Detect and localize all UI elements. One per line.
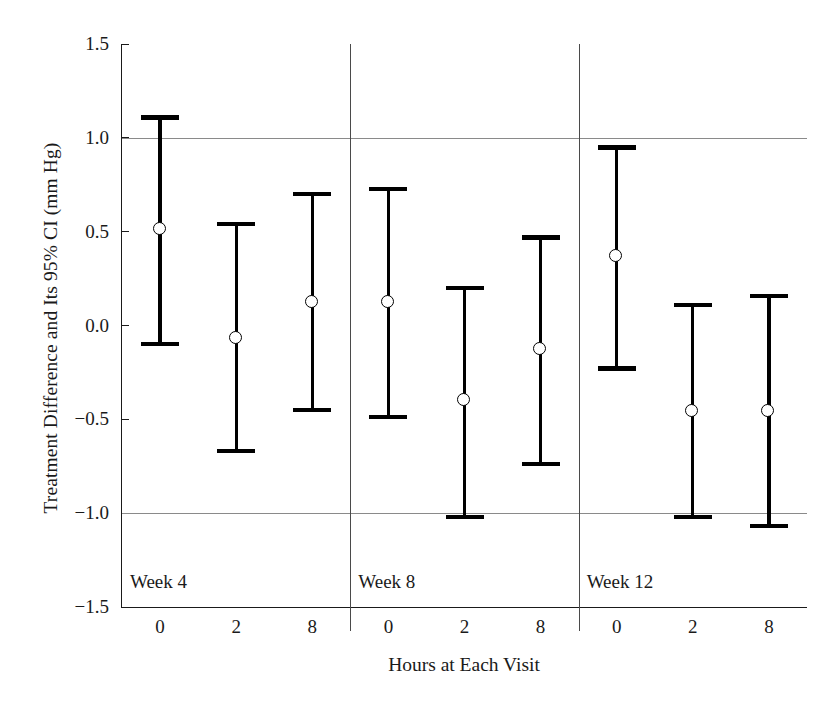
point-marker	[381, 295, 394, 308]
error-bar-upper-cap	[522, 235, 560, 239]
error-bar-upper-cap	[446, 286, 484, 290]
error-bar-upper-cap	[598, 145, 636, 149]
x-tick-label: 0	[130, 616, 190, 638]
error-bar-upper-cap	[750, 294, 788, 298]
y-tick-label: 0.0	[85, 313, 109, 339]
error-bar-lower-cap	[141, 342, 179, 346]
point-marker	[457, 393, 470, 406]
error-bar-chart: Treatment Difference and Its 95% CI (mm …	[0, 0, 825, 701]
point-marker	[685, 404, 698, 417]
point-marker	[609, 249, 622, 262]
error-bar-upper-cap	[674, 303, 712, 307]
group-separator	[350, 44, 351, 631]
x-tick-label: 8	[739, 616, 799, 638]
y-axis-title: Treatment Difference and Its 95% CI (mm …	[34, 18, 68, 638]
error-bar-lower-cap	[522, 462, 560, 466]
group-caption: Week 8	[358, 571, 415, 593]
reference-gridline	[122, 138, 807, 139]
point-marker	[153, 222, 166, 235]
x-tick-label: 0	[358, 616, 418, 638]
error-bar-lower-cap	[674, 515, 712, 519]
error-bar-lower-cap	[750, 524, 788, 528]
error-bar-upper-cap	[293, 192, 331, 196]
y-tick-mark	[122, 44, 129, 45]
error-bar-lower-cap	[369, 415, 407, 419]
y-tick-label: 0.5	[85, 219, 109, 245]
x-tick-label: 2	[663, 616, 723, 638]
x-tick-label: 2	[435, 616, 495, 638]
x-axis-title: Hours at Each Visit	[121, 654, 807, 676]
y-tick-mark	[122, 231, 129, 232]
error-bar-lower-cap	[293, 408, 331, 412]
y-tick-label: −0.5	[75, 406, 109, 432]
x-tick-label: 2	[206, 616, 266, 638]
x-tick-label: 8	[511, 616, 571, 638]
y-tick-mark	[122, 607, 129, 608]
error-bar-upper-cap	[141, 115, 179, 119]
group-caption: Week 12	[587, 571, 654, 593]
x-tick-label: 8	[282, 616, 342, 638]
x-tick-label: 0	[587, 616, 647, 638]
error-bar-upper-cap	[369, 187, 407, 191]
error-bar-lower-cap	[217, 449, 255, 453]
y-tick-mark	[122, 419, 129, 420]
y-tick-label: −1.0	[75, 500, 109, 526]
error-bar-lower-cap	[598, 366, 636, 370]
y-tick-label: 1.0	[85, 125, 109, 151]
error-bar-lower-cap	[446, 515, 484, 519]
point-marker	[229, 331, 242, 344]
group-caption: Week 4	[130, 571, 187, 593]
y-tick-mark	[122, 325, 129, 326]
point-marker	[761, 404, 774, 417]
point-marker	[533, 342, 546, 355]
plot-area: 1.51.00.50.0−0.5−1.0−1.5Week 4Week 8Week…	[121, 44, 807, 608]
point-marker	[305, 295, 318, 308]
y-tick-label: −1.5	[75, 594, 109, 620]
y-tick-label: 1.5	[85, 31, 109, 57]
error-bar-upper-cap	[217, 222, 255, 226]
group-separator	[579, 44, 580, 631]
